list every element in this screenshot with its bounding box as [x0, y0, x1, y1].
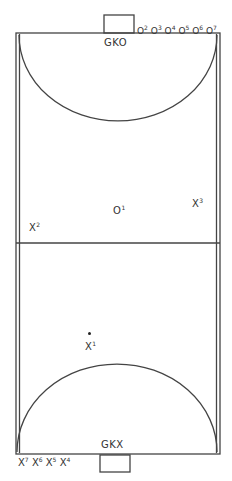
player-x6: X6: [32, 457, 43, 468]
goalkeeper-o-label: GKO: [104, 38, 127, 48]
player-x5: X5: [46, 457, 57, 468]
goalkeeper-x-label: GKX: [101, 440, 124, 450]
player-o2: O2: [137, 26, 148, 36]
player-x1: X1: [85, 341, 97, 352]
player-x2: X2: [29, 222, 41, 233]
player-o5: O5: [178, 26, 189, 36]
top-goal: [104, 15, 134, 33]
player-x3: X3: [192, 198, 204, 209]
court-diagram: [0, 0, 232, 481]
player-o7: O7: [206, 26, 217, 36]
top-bench-players: O2 O3 O4 O5 O6 O7: [137, 25, 217, 36]
player-x7: X7: [18, 457, 29, 468]
player-o1: O1: [113, 205, 126, 216]
player-o3: O3: [151, 26, 162, 36]
bottom-bench-players: X7 X6 X5 X4: [18, 457, 70, 468]
player-x4: X4: [60, 457, 71, 468]
bottom-goal: [100, 455, 130, 472]
player-o6: O6: [192, 26, 203, 36]
player-o4: O4: [165, 26, 176, 36]
ball-icon: [88, 332, 91, 335]
